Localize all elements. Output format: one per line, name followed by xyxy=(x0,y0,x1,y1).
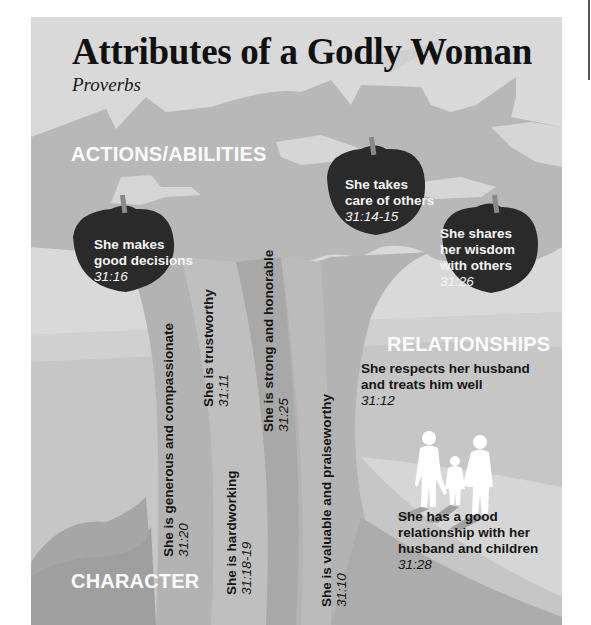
verse-ref: 31:16 xyxy=(94,269,193,285)
character-strong: She is strong and honorable 31:25 xyxy=(261,250,291,432)
character-text: She is trustworthy xyxy=(201,289,216,407)
character-text: She is hardworking xyxy=(224,470,239,595)
relationship-text-line: She respects her husband xyxy=(361,361,530,377)
character-text: She is strong and honorable xyxy=(261,250,276,432)
section-label-relationships: RELATIONSHIPS xyxy=(387,333,550,356)
page-subtitle: Proverbs xyxy=(72,74,141,96)
verse-ref: 31:14-15 xyxy=(345,209,434,225)
section-label-actions: ACTIONS/ABILITIES xyxy=(71,143,267,166)
apple-text-line: She shares xyxy=(440,226,515,242)
character-text: She is generous and compassionate xyxy=(161,323,176,557)
apple-care-of-others: She takes care of others 31:14-15 xyxy=(345,177,434,225)
verse-ref: 31:12 xyxy=(361,393,530,409)
character-trustworthy: She is trustworthy 31:11 xyxy=(201,289,231,407)
page-title: Attributes of a Godly Woman xyxy=(72,30,532,73)
apple-text-line: care of others xyxy=(345,193,434,209)
character-valuable: She is valuable and praiseworthy 31:10 xyxy=(319,394,349,607)
verse-ref: 31:11 xyxy=(216,289,231,407)
apple-text-line: She takes xyxy=(345,177,434,193)
apple-text-line: She makes xyxy=(94,237,193,253)
section-label-character: CHARACTER xyxy=(71,570,199,593)
relationship-good-family: She has a good relationship with her hus… xyxy=(398,509,538,573)
verse-ref: 31:20 xyxy=(176,323,191,557)
relationship-respects-husband: She respects her husband and treats him … xyxy=(361,361,530,409)
relationship-text-line: and treats him well xyxy=(361,377,530,393)
apple-text-line: with others xyxy=(440,258,515,274)
infographic-panel: Attributes of a Godly Woman Proverbs ACT… xyxy=(31,17,562,625)
apple-shares-wisdom: She shares her wisdom with others 31:26 xyxy=(440,226,515,290)
relationship-text-line: husband and children xyxy=(398,541,538,557)
character-text: She is valuable and praiseworthy xyxy=(319,394,334,607)
verse-ref: 31:10 xyxy=(334,394,349,607)
window-edge-bar xyxy=(588,0,590,80)
character-generous: She is generous and compassionate 31:20 xyxy=(161,323,191,557)
apple-text-line: good decisions xyxy=(94,253,193,269)
verse-ref: 31:25 xyxy=(276,250,291,432)
character-hardworking: She is hardworking 31:18-19 xyxy=(224,470,254,595)
apple-good-decisions: She makes good decisions 31:16 xyxy=(94,237,193,285)
relationship-text-line: relationship with her xyxy=(398,525,538,541)
verse-ref: 31:28 xyxy=(398,557,538,573)
relationship-text-line: She has a good xyxy=(398,509,538,525)
verse-ref: 31:18-19 xyxy=(239,470,254,595)
apple-text-line: her wisdom xyxy=(440,242,515,258)
verse-ref: 31:26 xyxy=(440,274,515,290)
